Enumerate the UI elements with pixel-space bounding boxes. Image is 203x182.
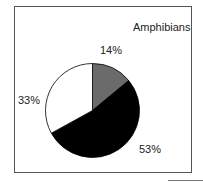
slice-label-black: 53%	[139, 143, 161, 155]
pie-chart	[0, 0, 203, 182]
slice-label-white: 33%	[18, 94, 40, 106]
slice-label-gray: 14%	[100, 44, 122, 56]
divider-line	[168, 180, 203, 181]
